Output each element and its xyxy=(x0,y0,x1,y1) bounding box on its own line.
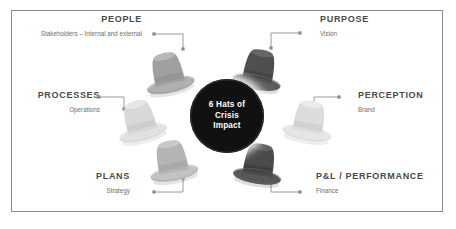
node-subtitle-plans: Strategy xyxy=(40,187,130,195)
node-title-perception: PERCEPTION xyxy=(358,90,454,101)
node-label-processes: PROCESSES Operations xyxy=(10,90,100,114)
node-label-pl-performance: P&L / PERFORMANCE Finance xyxy=(316,171,452,195)
center-badge-line-2: Crisis xyxy=(209,111,245,122)
node-subtitle-pl-performance: Finance xyxy=(316,187,452,195)
diagram-canvas: PEOPLE Stakeholders – Internal and exter… xyxy=(0,0,456,229)
node-label-perception: PERCEPTION Brand xyxy=(358,90,454,114)
node-subtitle-purpose: Vision xyxy=(320,30,440,38)
node-label-plans: PLANS Strategy xyxy=(40,171,130,195)
node-label-purpose: PURPOSE Vision xyxy=(320,14,440,38)
node-subtitle-perception: Brand xyxy=(358,106,454,114)
top-hat-icon-plans xyxy=(141,131,204,190)
node-title-processes: PROCESSES xyxy=(10,90,100,101)
node-title-plans: PLANS xyxy=(40,171,130,182)
node-subtitle-processes: Operations xyxy=(10,106,100,114)
node-label-people: PEOPLE Stakeholders – Internal and exter… xyxy=(26,14,142,38)
top-hat-icon-perception xyxy=(278,92,340,151)
center-badge-line-3: Impact xyxy=(209,121,245,132)
node-title-people: PEOPLE xyxy=(26,14,142,25)
node-subtitle-people: Stakeholders – Internal and external xyxy=(26,30,142,38)
node-title-pl-performance: P&L / PERFORMANCE xyxy=(316,171,452,182)
center-badge-line-1: 6 Hats of xyxy=(209,100,245,111)
center-badge: 6 Hats of Crisis Impact xyxy=(190,79,264,153)
center-badge-text: 6 Hats of Crisis Impact xyxy=(209,100,245,132)
node-title-purpose: PURPOSE xyxy=(320,14,440,25)
